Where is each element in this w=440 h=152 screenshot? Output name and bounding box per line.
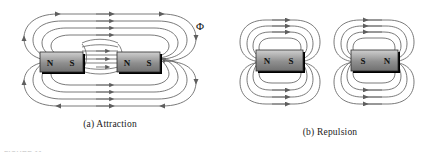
magnet-pole-label-s: S [288,56,293,66]
attraction-left-magnet: N S [40,52,85,74]
panel-attraction: N S N S Φ (a) Attraction [0,0,220,152]
magnet-pole-label-s: S [69,58,74,68]
repulsion-left-magnet: N S [256,50,305,73]
magnet-pole-label-n: N [384,56,391,66]
attraction-right-magnet: N S [117,52,162,74]
repulsion-right-magnet: S N [351,50,400,73]
caption-repulsion: (b) Repulsion [220,127,440,137]
caption-attraction: (a) Attraction [0,119,220,129]
magnet-pole-label-n: N [264,56,271,66]
magnet-pole-label-n: N [47,58,54,68]
attraction-gap-field-lines [82,39,123,74]
magnet-body [351,50,398,71]
panel-repulsion: N S S N Φ (b) Repulsion [220,0,440,152]
magnet-pole-label-s: S [360,56,365,66]
flux-symbol-attraction: Φ [196,21,204,32]
magnet-pole-label-s: S [146,58,151,68]
magnetic-field-figure: N S N S Φ (a) Attraction [0,0,440,152]
attraction-diagram: N S N S [0,0,220,120]
clipped-figure-footer: FIGURE 11 [4,150,43,152]
magnet-pole-label-n: N [124,58,131,68]
repulsion-diagram: N S S N [220,0,440,125]
